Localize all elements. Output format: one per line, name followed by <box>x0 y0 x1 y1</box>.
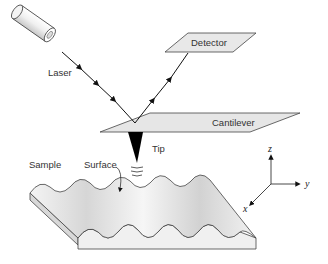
cantilever: Cantilever <box>100 113 300 132</box>
cantilever-label: Cantilever <box>212 117 255 128</box>
detector: Detector <box>165 33 256 52</box>
tip <box>128 132 143 163</box>
coordinate-axes <box>251 157 298 204</box>
sample-block <box>30 175 256 249</box>
z-axis-label: z <box>267 143 272 154</box>
laser-source <box>9 3 57 44</box>
detector-label: Detector <box>191 37 227 48</box>
surface-label: Surface <box>84 159 117 170</box>
y-axis-label: y <box>304 178 310 189</box>
x-axis-label: x <box>242 203 248 214</box>
laser-label: Laser <box>48 67 72 78</box>
tip-label: Tip <box>152 143 165 154</box>
afm-diagram: Laser Detector Cantilever Tip Sample Su <box>0 0 328 264</box>
sample-label: Sample <box>29 159 61 170</box>
laser-beam <box>62 52 188 123</box>
interaction-waves-icon <box>131 167 143 176</box>
